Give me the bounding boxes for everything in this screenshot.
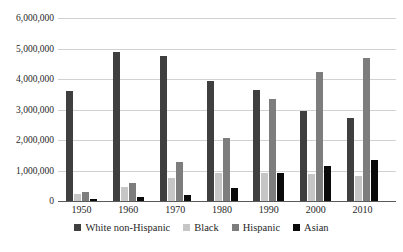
x-tick-label-1960: 1960	[105, 204, 152, 215]
bar-1950-white-non-hispanic	[66, 91, 73, 201]
legend-marker-icon-black	[183, 224, 190, 231]
bar-1970-black	[168, 178, 175, 201]
bar-1960-asian	[137, 197, 144, 201]
bar-1990-asian	[277, 173, 284, 201]
bar-2010-black	[355, 176, 362, 201]
bar-2000-hispanic	[316, 72, 323, 201]
legend-item-black: Black	[183, 222, 219, 233]
x-tick-label-1980: 1980	[199, 204, 246, 215]
bar-1960-hispanic	[129, 183, 136, 201]
bar-1950-hispanic	[82, 192, 89, 201]
legend: White non-HispanicBlackHispanicAsian	[0, 222, 403, 233]
legend-item-asian: Asian	[293, 222, 329, 233]
bar-1980-asian	[231, 188, 238, 201]
bar-1990-white-non-hispanic	[253, 90, 260, 201]
x-axis-labels: 1950196019701980199020002010	[58, 204, 396, 215]
bar-group-2000	[292, 18, 339, 201]
bar-group-1980	[199, 18, 246, 201]
bar-chart-figure: 01,000,0002,000,0003,000,0004,000,0005,0…	[0, 0, 403, 252]
bar-2010-hispanic	[363, 58, 370, 201]
bar-1970-white-non-hispanic	[160, 56, 167, 201]
bar-group-1950	[58, 18, 105, 201]
bar-2000-white-non-hispanic	[300, 111, 307, 201]
y-tick-label-3000000: 3,000,000	[0, 105, 54, 115]
legend-item-hispanic: Hispanic	[232, 222, 280, 233]
legend-label-asian: Asian	[304, 222, 329, 233]
x-tick-label-1990: 1990	[245, 204, 292, 215]
legend-label-white-non-hispanic: White non-Hispanic	[85, 222, 170, 233]
bar-1960-black	[121, 187, 128, 201]
legend-marker-icon-asian	[293, 224, 300, 231]
x-tick-label-1950: 1950	[58, 204, 105, 215]
y-tick-label-2000000: 2,000,000	[0, 135, 54, 145]
x-tick-label-1970: 1970	[152, 204, 199, 215]
bar-1990-black	[261, 173, 268, 201]
y-tick-label-6000000: 6,000,000	[0, 13, 54, 23]
bar-2000-asian	[324, 166, 331, 201]
bar-1970-hispanic	[176, 162, 183, 201]
legend-marker-icon-white-non-hispanic	[74, 224, 81, 231]
bar-groups	[58, 18, 396, 201]
legend-marker-icon-hispanic	[232, 224, 239, 231]
x-tick-label-2000: 2000	[292, 204, 339, 215]
bar-2000-black	[308, 174, 315, 201]
x-axis-line	[58, 201, 396, 202]
bar-1950-asian	[90, 199, 97, 201]
x-tick-label-2010: 2010	[339, 204, 386, 215]
legend-item-white-non-hispanic: White non-Hispanic	[74, 222, 170, 233]
bar-group-1990	[245, 18, 292, 201]
bar-1980-hispanic	[223, 138, 230, 201]
bar-group-1970	[152, 18, 199, 201]
legend-label-black: Black	[194, 222, 219, 233]
y-tick-label-0: 0	[0, 196, 54, 206]
y-tick-label-5000000: 5,000,000	[0, 44, 54, 54]
bar-group-2010	[339, 18, 386, 201]
bar-1980-black	[215, 173, 222, 201]
bar-2010-asian	[371, 160, 378, 201]
plot-area	[58, 18, 396, 201]
y-tick-label-4000000: 4,000,000	[0, 74, 54, 84]
legend-label-hispanic: Hispanic	[243, 222, 280, 233]
bar-1950-black	[74, 194, 81, 201]
bar-2010-white-non-hispanic	[347, 118, 354, 201]
bar-1970-asian	[184, 195, 191, 201]
bar-1980-white-non-hispanic	[207, 81, 214, 201]
y-tick-label-1000000: 1,000,000	[0, 166, 54, 176]
bar-1960-white-non-hispanic	[113, 52, 120, 201]
bar-group-1960	[105, 18, 152, 201]
bar-1990-hispanic	[269, 99, 276, 201]
